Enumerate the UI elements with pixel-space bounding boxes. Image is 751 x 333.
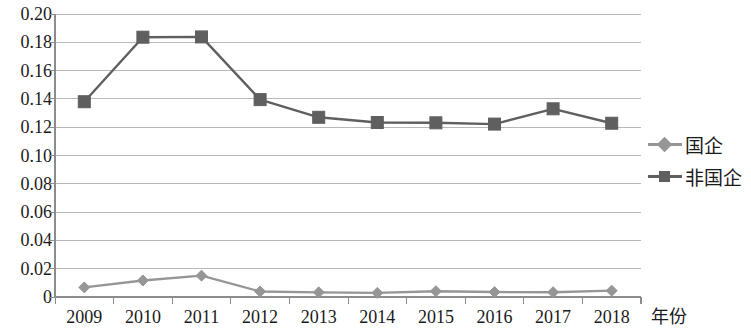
x-tick-label: 2017 (524, 308, 583, 326)
x-tick-label: 2013 (289, 308, 348, 326)
data-point-marker (606, 285, 617, 296)
line-chart: 00.020.040.060.080.100.120.140.160.180.2… (0, 0, 751, 333)
data-point-marker (547, 103, 559, 115)
data-point-marker (196, 31, 208, 43)
data-point-marker (137, 275, 148, 286)
x-tick-marks (49, 14, 641, 304)
data-point-marker (254, 94, 266, 106)
data-point-marker (430, 117, 442, 129)
data-point-marker (79, 282, 90, 293)
data-point-marker (489, 118, 501, 130)
data-point-marker (78, 96, 90, 108)
data-point-marker (371, 117, 383, 129)
x-tick-label: 2009 (55, 308, 114, 326)
plot-area (0, 0, 751, 333)
x-tick-label: 2014 (348, 308, 407, 326)
x-tick-label: 2015 (407, 308, 466, 326)
chart-legend: 国企 非国企 (648, 128, 751, 192)
x-tick-label: 2018 (582, 308, 641, 326)
square-marker-icon (659, 171, 670, 182)
data-point-marker (548, 287, 559, 298)
legend-label-guoqi: 国企 (685, 131, 723, 158)
data-point-marker (255, 286, 266, 297)
series-line-0 (84, 276, 611, 293)
axis-lines (55, 14, 641, 304)
data-point-marker (489, 287, 500, 298)
legend-item-guoqi[interactable]: 国企 (648, 128, 751, 160)
data-point-marker (430, 286, 441, 297)
diamond-marker-icon (657, 137, 673, 153)
x-axis-title: 年份 (651, 308, 687, 326)
x-tick-label: 2011 (172, 308, 231, 326)
legend-swatch-guoqi (648, 137, 682, 151)
series-line-1 (84, 37, 611, 124)
x-tick-label: 2016 (465, 308, 524, 326)
data-point-marker (606, 117, 618, 129)
data-point-marker (196, 270, 207, 281)
data-point-marker (313, 287, 324, 298)
gridlines (55, 14, 641, 297)
legend-swatch-feiguoqi (648, 169, 682, 183)
series-lines (84, 37, 611, 293)
legend-label-feiguoqi: 非国企 (685, 163, 742, 190)
x-tick-label: 2010 (114, 308, 173, 326)
legend-item-feiguoqi[interactable]: 非国企 (648, 160, 751, 192)
data-point-marker (137, 31, 149, 43)
data-point-marker (313, 111, 325, 123)
x-tick-label: 2012 (231, 308, 290, 326)
